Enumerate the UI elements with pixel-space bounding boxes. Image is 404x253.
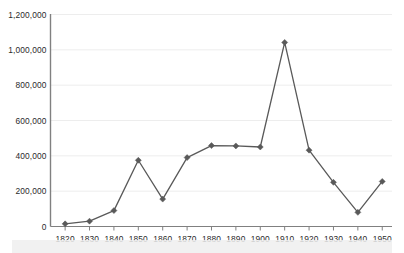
data-line-group	[65, 42, 382, 223]
data-point-marker	[233, 143, 239, 149]
y-tick-label: 200,000	[16, 186, 47, 196]
chart-plot-area	[0, 0, 404, 253]
gridlines-group	[51, 15, 393, 192]
data-point-marker	[282, 39, 288, 45]
data-point-marker	[87, 218, 93, 224]
data-markers-group	[62, 39, 385, 226]
data-line	[65, 42, 382, 223]
y-tick-label: 600,000	[16, 116, 47, 126]
y-tick-label: 1,000,000	[8, 45, 46, 55]
y-tick-label: 1,200,000	[8, 10, 46, 20]
data-point-marker	[160, 196, 166, 202]
y-tick-label: 0	[42, 222, 47, 232]
line-chart-figure: 0200,000400,000600,000800,0001,000,0001,…	[0, 0, 404, 253]
y-tick-label: 800,000	[16, 80, 47, 90]
data-point-marker	[111, 208, 117, 214]
y-tick-label: 400,000	[16, 151, 47, 161]
data-point-marker	[135, 157, 141, 163]
data-point-marker	[208, 143, 214, 149]
x-tick-marks-group	[65, 227, 382, 231]
caption-band	[12, 240, 392, 253]
data-point-marker	[257, 144, 263, 150]
